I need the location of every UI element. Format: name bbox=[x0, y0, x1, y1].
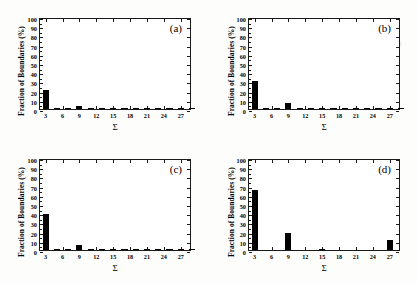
x-tick-label: 9 bbox=[287, 109, 290, 119]
bar bbox=[88, 249, 94, 250]
x-tick-label: 18 bbox=[127, 250, 133, 260]
x-tick-label: 24 bbox=[161, 109, 167, 119]
x-tick-label: 21 bbox=[353, 109, 359, 119]
bar bbox=[110, 249, 116, 250]
y-tick-label: 90 bbox=[31, 25, 40, 32]
chart-panel-1: Fraction of Boundaries (%)(a)01020304050… bbox=[0, 0, 209, 141]
bar bbox=[189, 108, 195, 109]
x-tick-label: 18 bbox=[336, 250, 342, 260]
y-tick-label: 70 bbox=[240, 184, 249, 191]
y-tick-mark bbox=[249, 252, 252, 253]
bar bbox=[252, 190, 258, 250]
y-tick-label: 30 bbox=[240, 80, 249, 87]
bar bbox=[54, 249, 60, 250]
x-tick-label: 27 bbox=[387, 109, 393, 119]
x-tick-label: 24 bbox=[370, 250, 376, 260]
bar bbox=[121, 249, 127, 250]
bar-series bbox=[249, 160, 399, 250]
y-tick-label: 100 bbox=[237, 16, 249, 23]
y-tick-label: 60 bbox=[31, 52, 40, 59]
bar bbox=[121, 108, 127, 109]
x-tick-label: 18 bbox=[336, 109, 342, 119]
y-tick-label: 40 bbox=[31, 212, 40, 219]
bar bbox=[133, 108, 139, 109]
y-tick-label: 10 bbox=[240, 239, 249, 246]
y-tick-label: 80 bbox=[240, 34, 249, 41]
plot-area: (c)0102030405060708090100369121518212427 bbox=[39, 159, 191, 251]
y-tick-label: 30 bbox=[31, 80, 40, 87]
x-tick-label: 6 bbox=[61, 250, 64, 260]
y-tick-label: 30 bbox=[240, 221, 249, 228]
x-axis-label: Σ bbox=[39, 122, 191, 132]
y-tick-label: 10 bbox=[31, 98, 40, 105]
bar bbox=[387, 240, 393, 250]
bar bbox=[99, 249, 105, 250]
y-tick-label: 40 bbox=[31, 71, 40, 78]
x-axis-label: Σ bbox=[248, 263, 400, 273]
y-tick-mark-right bbox=[396, 111, 399, 112]
y-axis-label: Fraction of Boundaries (%) bbox=[227, 19, 236, 123]
x-tick-label: 12 bbox=[93, 109, 99, 119]
x-tick-label: 3 bbox=[253, 109, 256, 119]
bar bbox=[144, 108, 150, 109]
y-tick-label: 40 bbox=[240, 71, 249, 78]
x-tick-label: 6 bbox=[270, 109, 273, 119]
y-tick-label: 100 bbox=[28, 157, 40, 164]
bar bbox=[178, 108, 184, 109]
x-tick-label: 9 bbox=[78, 250, 81, 260]
y-tick-label: 90 bbox=[31, 166, 40, 173]
y-tick-label: 60 bbox=[31, 193, 40, 200]
y-tick-mark-right bbox=[396, 252, 399, 253]
y-tick-mark-right bbox=[187, 111, 190, 112]
bar-series bbox=[40, 19, 190, 109]
y-tick-label: 80 bbox=[31, 34, 40, 41]
y-axis-label: Fraction of Boundaries (%) bbox=[227, 160, 236, 264]
plot-area: (a)0102030405060708090100369121518212427 bbox=[39, 18, 191, 110]
bar bbox=[76, 245, 82, 250]
bar bbox=[133, 249, 139, 250]
bar bbox=[297, 108, 303, 109]
x-tick-label: 21 bbox=[144, 109, 150, 119]
y-axis-label: Fraction of Boundaries (%) bbox=[17, 19, 26, 123]
x-tick-label: 9 bbox=[78, 109, 81, 119]
y-tick-label: 10 bbox=[240, 98, 249, 105]
y-tick-mark bbox=[40, 252, 43, 253]
x-tick-label: 15 bbox=[319, 109, 325, 119]
x-tick-label: 18 bbox=[127, 109, 133, 119]
bar bbox=[54, 108, 60, 109]
y-tick-label: 30 bbox=[31, 221, 40, 228]
x-tick-label: 3 bbox=[44, 250, 47, 260]
y-tick-label: 20 bbox=[240, 230, 249, 237]
bar bbox=[155, 249, 161, 250]
x-tick-label: 3 bbox=[44, 109, 47, 119]
y-tick-mark-right bbox=[187, 252, 190, 253]
y-tick-mark bbox=[249, 111, 252, 112]
bar bbox=[43, 214, 49, 250]
y-tick-label: 70 bbox=[31, 184, 40, 191]
x-axis-label: Σ bbox=[39, 263, 191, 273]
bar bbox=[308, 108, 314, 109]
bar bbox=[342, 108, 348, 109]
plot-area: (b)0102030405060708090100369121518212427 bbox=[248, 18, 400, 110]
x-tick-label: 21 bbox=[144, 250, 150, 260]
bar bbox=[353, 108, 359, 109]
bar bbox=[189, 249, 195, 250]
x-tick-label: 24 bbox=[161, 250, 167, 260]
x-axis-label: Σ bbox=[248, 122, 400, 132]
bar bbox=[319, 108, 325, 109]
x-tick-label: 15 bbox=[110, 109, 116, 119]
bar bbox=[274, 108, 280, 109]
y-tick-mark bbox=[40, 111, 43, 112]
bar bbox=[166, 108, 172, 109]
y-tick-label: 80 bbox=[240, 175, 249, 182]
y-tick-label: 50 bbox=[240, 62, 249, 69]
chart-panel-2: Fraction of Boundaries (%)(b)01020304050… bbox=[209, 0, 418, 141]
x-tick-label: 12 bbox=[93, 250, 99, 260]
x-tick-label: 15 bbox=[319, 250, 325, 260]
bar bbox=[43, 90, 49, 109]
x-tick-label: 12 bbox=[302, 109, 308, 119]
x-tick-label: 6 bbox=[270, 250, 273, 260]
y-tick-label: 60 bbox=[240, 52, 249, 59]
x-tick-label: 21 bbox=[353, 250, 359, 260]
plot-area: (d)0102030405060708090100369121518212427 bbox=[248, 159, 400, 251]
